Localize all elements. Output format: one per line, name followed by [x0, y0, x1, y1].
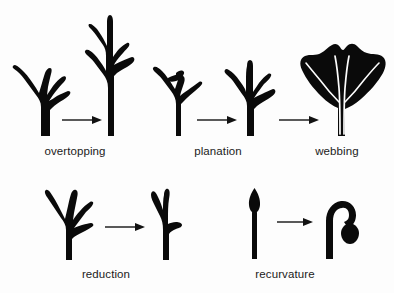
plant-silhouette: [225, 60, 276, 136]
figure-branch-system-many-tips: [42, 186, 100, 260]
plant-silhouette: [151, 189, 182, 260]
figure-reduced-branch-system: [150, 186, 190, 260]
stage-label-reduction: reduction: [74, 268, 138, 281]
figure-recurved-sporangium-axis: [320, 197, 364, 259]
figure-webbed-fan-leaf: [297, 30, 387, 136]
leaf-lamina-silhouette: [300, 44, 385, 136]
axis-stem: [252, 209, 257, 259]
figure-overtopped-branch-system: [82, 14, 144, 136]
stage-label-overtopping: overtopping: [38, 145, 112, 158]
stage-label-webbing: webbing: [309, 145, 365, 158]
arrow-recurvature: [277, 216, 313, 228]
terminal-sporangium: [249, 188, 260, 213]
plant-silhouette: [85, 15, 134, 136]
stage-label-recurvature: recurvature: [246, 268, 324, 281]
terminal-sporangium: [341, 223, 359, 244]
plant-silhouette: [45, 190, 93, 260]
figure-planated-branch-system: [222, 58, 282, 136]
arrow-head: [135, 223, 145, 231]
leaf-evolution-diagram: overtopping planation webbing reduction …: [0, 0, 394, 293]
arrow-head: [303, 218, 313, 226]
stage-label-planation: planation: [187, 145, 249, 158]
arrow-reduction: [105, 221, 145, 233]
figure-erect-sporangium-axis: [244, 187, 266, 259]
